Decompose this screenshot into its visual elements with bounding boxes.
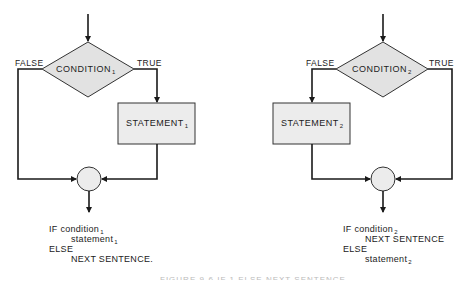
code-line-2: NEXT SENTENCE bbox=[365, 235, 444, 244]
statement-exit-path bbox=[102, 144, 157, 179]
false-path bbox=[312, 69, 336, 102]
condition-label: CONDITION2 bbox=[352, 65, 412, 75]
code-line-3: ELSE bbox=[49, 245, 73, 254]
code-line-4: NEXT SENTENCE. bbox=[71, 255, 153, 264]
false-label: FALSE bbox=[306, 59, 334, 68]
false-label: FALSE bbox=[15, 59, 43, 68]
code-line-3: ELSE bbox=[343, 245, 367, 254]
condition-label: CONDITION1 bbox=[56, 65, 116, 75]
right-flowchart bbox=[273, 14, 452, 212]
statement-exit-path bbox=[312, 144, 370, 179]
statement-label: STATEMENT1 bbox=[126, 119, 189, 129]
true-path bbox=[396, 69, 452, 179]
false-path bbox=[18, 69, 76, 179]
left-flowchart bbox=[18, 14, 195, 212]
code-line-2: statement1 bbox=[71, 235, 118, 245]
connector-circle bbox=[77, 167, 101, 191]
connector-circle bbox=[371, 167, 395, 191]
true-label: TRUE bbox=[137, 59, 162, 68]
code-line-4: statement2 bbox=[365, 255, 412, 265]
true-path bbox=[134, 69, 157, 102]
statement-label: STATEMENT2 bbox=[281, 119, 344, 129]
true-label: TRUE bbox=[429, 59, 454, 68]
